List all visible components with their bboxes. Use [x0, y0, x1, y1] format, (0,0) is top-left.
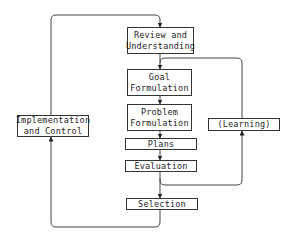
node-selection: Selection [126, 198, 198, 210]
node-implementation-control: Implementation and Control [17, 115, 89, 137]
node-plans: Plans [125, 138, 197, 150]
node-problem-formulation: Problem Formulation [127, 104, 192, 131]
node-evaluation: Evaluation [125, 160, 197, 172]
node-goal-formulation: Goal Formulation [127, 69, 192, 96]
node-review-understanding: Review and Understanding [127, 27, 194, 54]
node-learning: (Learning) [208, 118, 280, 131]
